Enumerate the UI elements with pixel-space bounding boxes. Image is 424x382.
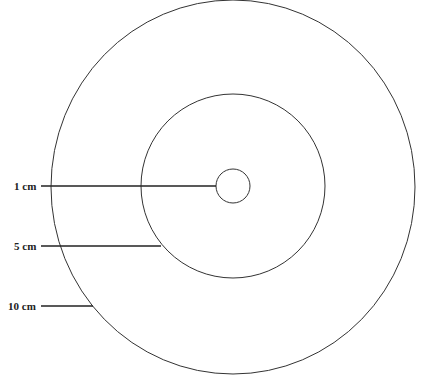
label-10cm: 10 cm xyxy=(8,300,36,312)
inner-circle-1cm xyxy=(216,169,250,203)
label-1cm: 1 cm xyxy=(14,180,36,192)
concentric-circles-diagram xyxy=(0,0,424,382)
label-5cm: 5 cm xyxy=(14,240,36,252)
outer-circle-10cm xyxy=(51,0,415,374)
